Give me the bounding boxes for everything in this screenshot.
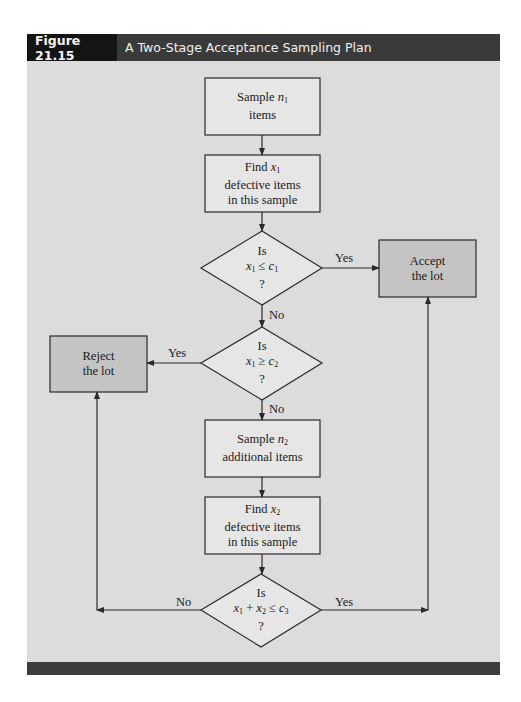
node-decision-1: Is x1 ≤ c1 ?	[211, 238, 313, 298]
node-find-x2: Find x2 defective items in this sample	[205, 497, 320, 554]
edge-label-d1-no: No	[269, 308, 284, 323]
edge-label-d1-yes: Yes	[335, 251, 353, 266]
text: Find	[245, 502, 271, 516]
subscript: 3	[285, 607, 289, 616]
text: the lot	[83, 364, 115, 379]
text: Is	[256, 586, 265, 601]
text: defective items	[224, 520, 300, 535]
text: ?	[258, 619, 264, 634]
text: in this sample	[228, 535, 297, 550]
text: additional items	[222, 450, 302, 465]
node-sample-n2: Sample n2 additional items	[205, 420, 320, 477]
operator: ≤	[266, 601, 279, 615]
subscript: 2	[276, 508, 280, 517]
node-reject: Reject the lot	[50, 336, 147, 392]
node-decision-2: Is x1 ≥ c2 ?	[211, 333, 313, 393]
text: Accept	[410, 254, 445, 269]
operator: ≥	[255, 354, 268, 368]
subscript: 2	[284, 438, 288, 447]
subscript: 1	[276, 166, 280, 175]
text: Is	[257, 244, 266, 259]
operator: ≤	[255, 259, 268, 273]
text: Find	[245, 160, 271, 174]
node-accept: Accept the lot	[379, 240, 476, 297]
figure-footer-bar	[27, 662, 500, 675]
edge-label-d3-no: No	[176, 595, 191, 610]
text: Is	[257, 339, 266, 354]
subscript: 2	[274, 360, 278, 369]
node-decision-3: Is x1 + x2 ≤ c3 ?	[201, 580, 321, 640]
text: ?	[259, 277, 265, 292]
text: Sample	[237, 90, 278, 104]
edge-label-d2-yes: Yes	[168, 346, 186, 361]
text: items	[249, 108, 276, 123]
text: ?	[259, 372, 265, 387]
text: in this sample	[228, 193, 297, 208]
node-sample-n1: Sample n1 items	[205, 78, 320, 135]
text: Reject	[83, 349, 115, 364]
text: the lot	[412, 269, 444, 284]
operator: +	[243, 601, 256, 615]
subscript: 1	[274, 265, 278, 274]
node-find-x1: Find x1 defective items in this sample	[205, 155, 320, 212]
text: Sample	[237, 432, 278, 446]
edge-label-d2-no: No	[269, 402, 284, 417]
subscript: 1	[284, 96, 288, 105]
text: defective items	[224, 178, 300, 193]
edge-label-d3-yes: Yes	[335, 595, 353, 610]
